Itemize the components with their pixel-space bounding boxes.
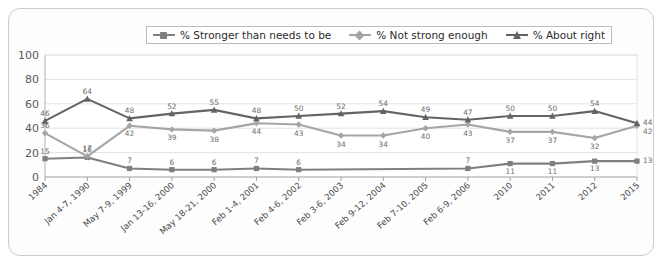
data-label-1-4: 6 <box>212 158 217 167</box>
data-point-1-11 <box>508 161 513 166</box>
y-axis-tick-80: 80 <box>25 73 39 86</box>
x-axis-label-13: 2012 <box>576 180 599 202</box>
data-label-1-13: 13 <box>590 164 600 173</box>
data-label-2-8: 34 <box>379 140 389 149</box>
data-label-1-11: 11 <box>505 167 515 176</box>
data-label-2-10: 43 <box>463 129 473 138</box>
data-label-1-10: 7 <box>466 156 471 165</box>
x-axis-label-14: 2015 <box>618 180 641 202</box>
data-label-1-6: 6 <box>296 158 301 167</box>
data-label-1-0: 15 <box>40 147 50 156</box>
data-point-1-14 <box>634 159 639 164</box>
data-label-3-0: 46 <box>40 109 50 118</box>
y-axis-tick-20: 20 <box>25 147 39 160</box>
data-label-2-3: 39 <box>167 133 177 142</box>
data-point-1-0 <box>42 156 47 161</box>
data-label-2-5: 44 <box>252 127 262 136</box>
line-chart: 0204060801001984Jan 4-7, 1990May 7-9, 19… <box>9 9 655 257</box>
data-label-3-10: 47 <box>463 108 473 117</box>
data-label-1-3: 6 <box>170 158 175 167</box>
data-point-1-10 <box>465 166 470 171</box>
x-axis-label-11: 2010 <box>492 180 515 202</box>
data-label-3-13: 54 <box>590 99 600 108</box>
data-label-3-8: 54 <box>379 99 389 108</box>
data-label-2-13: 32 <box>590 142 599 151</box>
data-label-3-5: 48 <box>252 106 262 115</box>
x-axis-label-12: 2011 <box>534 180 557 202</box>
data-label-3-3: 52 <box>167 102 176 111</box>
data-point-1-3 <box>169 167 174 172</box>
data-label-2-7: 34 <box>336 140 346 149</box>
data-label-3-9: 49 <box>421 105 431 114</box>
data-label-1-12: 11 <box>548 167 558 176</box>
data-label-1-2: 7 <box>127 156 132 165</box>
data-label-1-14: 13 <box>643 156 653 165</box>
data-label-1-5: 7 <box>254 156 259 165</box>
data-point-1-13 <box>592 159 597 164</box>
data-label-3-12: 50 <box>548 104 558 113</box>
data-label-3-4: 55 <box>209 98 219 107</box>
data-label-2-4: 38 <box>209 135 219 144</box>
data-point-1-5 <box>254 166 259 171</box>
data-point-1-6 <box>296 167 301 172</box>
data-label-2-11: 37 <box>505 136 515 145</box>
data-label-2-2: 42 <box>125 129 134 138</box>
data-label-2-1: 17 <box>83 144 93 153</box>
y-axis-tick-60: 60 <box>25 98 39 111</box>
data-label-2-6: 43 <box>294 129 304 138</box>
y-axis-tick-40: 40 <box>25 122 39 135</box>
data-point-1-12 <box>550 161 555 166</box>
chart-card: % Stronger than needs to be % Not strong… <box>8 8 654 256</box>
data-label-3-6: 50 <box>294 104 304 113</box>
data-point-1-2 <box>127 166 132 171</box>
data-label-2-14: 42 <box>643 127 652 136</box>
data-label-3-2: 48 <box>125 106 135 115</box>
data-label-3-11: 50 <box>505 104 515 113</box>
x-axis-label-0: 1984 <box>26 180 49 202</box>
chart-plot-area: 0204060801001984Jan 4-7, 1990May 7-9, 19… <box>9 9 655 257</box>
y-axis-tick-100: 100 <box>18 49 39 62</box>
data-label-2-9: 40 <box>421 132 431 141</box>
data-label-2-12: 37 <box>548 136 558 145</box>
data-point-1-4 <box>212 167 217 172</box>
data-label-3-7: 52 <box>336 102 345 111</box>
y-axis-tick-0: 0 <box>32 171 39 184</box>
data-label-3-14: 44 <box>643 118 653 127</box>
data-label-3-1: 64 <box>83 87 93 96</box>
